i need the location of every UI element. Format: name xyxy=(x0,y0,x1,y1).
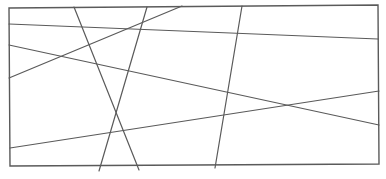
line-arrangement-diagram xyxy=(0,0,386,179)
background xyxy=(0,0,386,179)
diagram-canvas xyxy=(0,0,386,179)
